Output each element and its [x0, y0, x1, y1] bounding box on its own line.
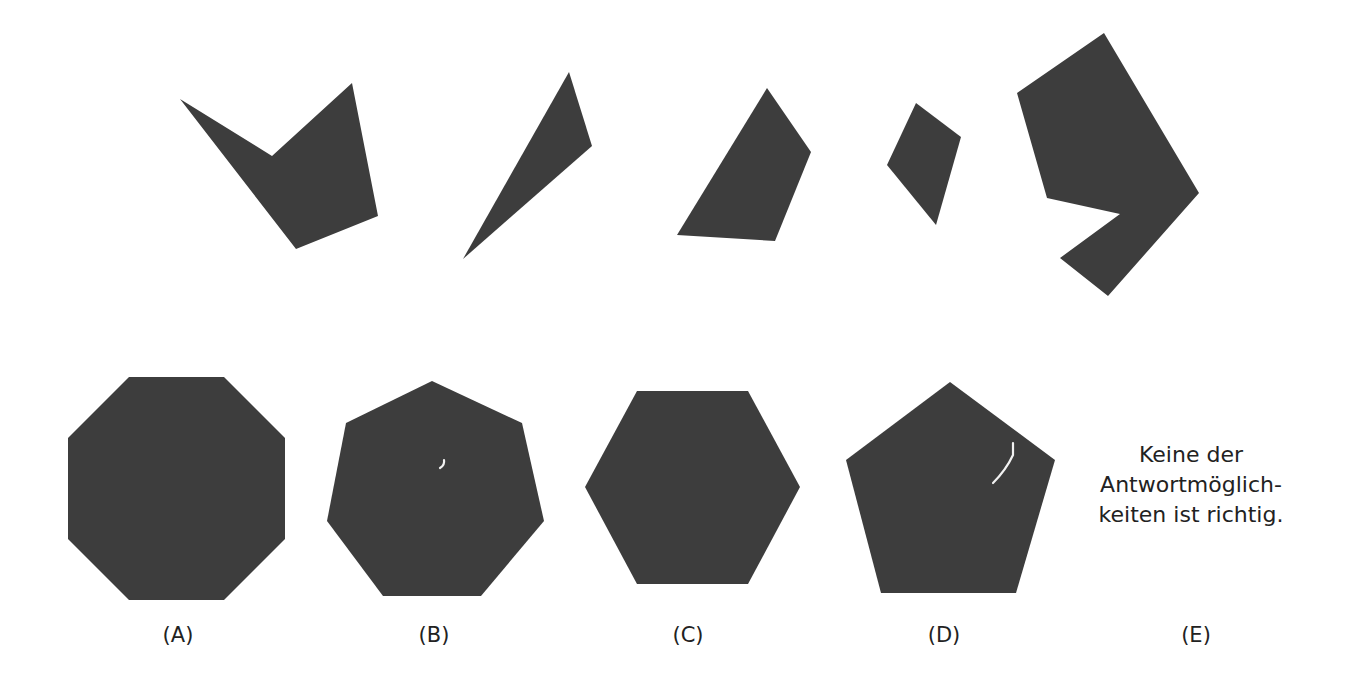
option-d-pentagon[interactable]: [846, 382, 1055, 593]
pieces-group: [180, 33, 1199, 296]
option-e-label[interactable]: (E): [1181, 622, 1211, 648]
option-e-line-2: Antwortmöglich-: [1099, 470, 1284, 500]
option-d-label[interactable]: (D): [928, 622, 961, 648]
option-b-heptagon[interactable]: [327, 381, 544, 596]
piece-concave-heptagon: [1017, 33, 1199, 296]
piece-arrowhead: [180, 83, 378, 249]
option-e-line-3: keiten ist richtig.: [1099, 500, 1284, 530]
option-e-text[interactable]: Keine der Antwortmöglich- keiten ist ric…: [1099, 440, 1284, 530]
puzzle-canvas: [0, 0, 1372, 683]
option-a-octagon[interactable]: [68, 377, 285, 600]
option-b-label[interactable]: (B): [419, 622, 450, 648]
option-c-hexagon[interactable]: [585, 391, 800, 584]
option-a-label[interactable]: (A): [163, 622, 194, 648]
piece-kite: [887, 103, 961, 225]
options-group: [68, 377, 1055, 600]
piece-thin-triangle: [463, 72, 592, 259]
option-c-label[interactable]: (C): [672, 622, 703, 648]
piece-quadrilateral: [677, 88, 811, 241]
option-e-line-1: Keine der: [1099, 440, 1284, 470]
